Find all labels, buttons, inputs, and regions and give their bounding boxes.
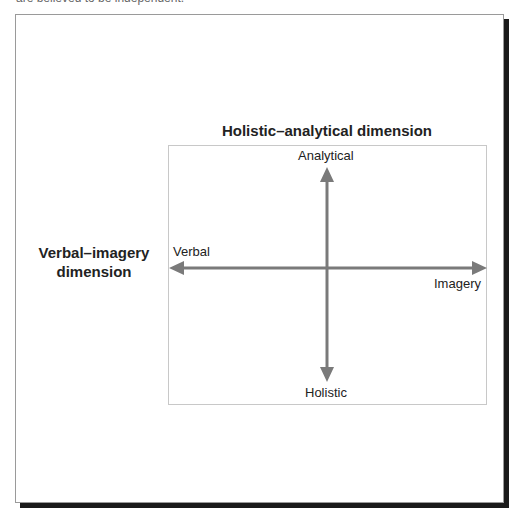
arrow-up-icon: [320, 167, 334, 182]
vertical-axis-arrow: [320, 167, 334, 382]
pole-label-verbal: Verbal: [173, 244, 210, 259]
pole-label-holistic: Holistic: [305, 385, 347, 400]
arrow-right-icon: [472, 261, 487, 275]
arrow-left-icon: [169, 261, 184, 275]
pole-label-analytical: Analytical: [298, 148, 354, 163]
arrow-down-icon: [320, 367, 334, 382]
pole-label-imagery: Imagery: [434, 276, 481, 291]
axes-graphic: [0, 0, 521, 515]
